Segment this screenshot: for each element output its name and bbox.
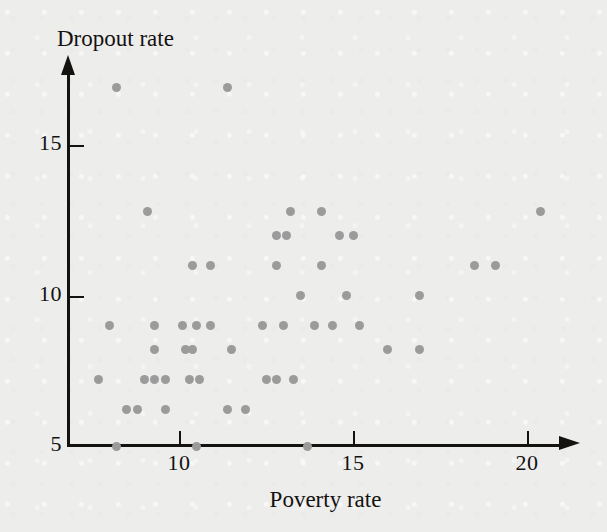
scatter-point (150, 345, 159, 354)
scatter-point (161, 405, 170, 414)
scatter-point (355, 321, 364, 330)
scatter-point (206, 321, 215, 330)
scatter-point (328, 321, 337, 330)
scatter-point (335, 231, 344, 240)
scatter-point (383, 345, 392, 354)
scatter-point (150, 321, 159, 330)
scatter-point (94, 375, 103, 384)
scatter-point (112, 83, 121, 92)
scatter-point (317, 207, 326, 216)
scatter-point (192, 442, 201, 451)
scatter-point (303, 442, 312, 451)
scatter-point (133, 405, 142, 414)
scatter-point (491, 261, 500, 270)
scatter-point (289, 375, 298, 384)
scatter-point (143, 207, 152, 216)
scatter-point (122, 405, 131, 414)
scatter-point (272, 261, 281, 270)
scatter-point (206, 261, 215, 270)
scatter-point (223, 83, 232, 92)
scatter-point (241, 405, 250, 414)
scatter-point (272, 375, 281, 384)
scatter-point (349, 231, 358, 240)
scatter-point (317, 261, 326, 270)
scatter-point (185, 375, 194, 384)
scatter-point (227, 345, 236, 354)
scatter-point (258, 321, 267, 330)
scatter-point (105, 321, 114, 330)
scatter-point (279, 321, 288, 330)
scatter-point (140, 375, 149, 384)
scatter-point (112, 442, 121, 451)
scatter-point (415, 291, 424, 300)
scatter-plot-figure: Dropout rate Poverty rate 51015101520 (0, 0, 607, 532)
scatter-point (161, 375, 170, 384)
scatter-point (178, 321, 187, 330)
data-points-layer (0, 0, 607, 532)
scatter-point (272, 231, 281, 240)
scatter-point (192, 321, 201, 330)
scatter-point (296, 291, 305, 300)
scatter-point (342, 291, 351, 300)
scatter-point (223, 405, 232, 414)
scatter-point (188, 345, 197, 354)
scatter-point (150, 375, 159, 384)
scatter-point (282, 231, 291, 240)
scatter-point (262, 375, 271, 384)
scatter-point (536, 207, 545, 216)
scatter-point (470, 261, 479, 270)
scatter-point (195, 375, 204, 384)
scatter-point (286, 207, 295, 216)
scatter-point (188, 261, 197, 270)
scatter-point (310, 321, 319, 330)
scatter-point (415, 345, 424, 354)
